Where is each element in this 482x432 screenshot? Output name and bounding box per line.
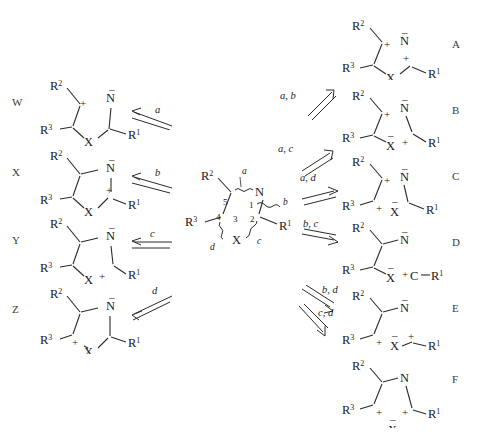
B-charge-minus-N: ‒: [401, 93, 408, 105]
bond-label-a: a: [242, 166, 247, 176]
C-charge-minus-X: ‒: [391, 195, 398, 207]
row-label-X: X: [12, 166, 20, 178]
svg-text:R3: R3: [40, 261, 52, 275]
arrow-label-ac-B: a, c: [278, 143, 293, 154]
Z-charge-minus: ‒: [108, 291, 115, 303]
svg-text:R2: R2: [352, 221, 364, 235]
svg-text:R2: R2: [50, 217, 62, 231]
D-fragment-charge: +: [402, 268, 408, 280]
arrow-to-Z: [126, 292, 174, 326]
C-charge-plus-2: +: [376, 202, 382, 214]
arrow-label-bd-E: b, d: [322, 284, 338, 295]
A-X-atom: X: [386, 71, 395, 80]
D-fragment-C: C: [410, 269, 418, 282]
F-charge-plus-1: +: [376, 406, 382, 418]
svg-text:R1: R1: [428, 339, 440, 352]
svg-text:R1: R1: [428, 407, 440, 421]
X-charge-minus: ‒: [108, 153, 115, 165]
ring-number-2: 2: [250, 214, 255, 224]
bond-label-b: b: [283, 197, 288, 207]
center-R3-label: R3: [185, 215, 197, 229]
B-charge-plus-2: +: [402, 136, 408, 148]
E-charge-plus-2: +: [408, 330, 414, 342]
arrow-to-C: [300, 185, 342, 213]
svg-text:R2: R2: [352, 289, 364, 303]
F-N-atom: N: [400, 371, 409, 385]
svg-text:R2: R2: [352, 155, 364, 169]
W-charge-plus: +: [80, 97, 86, 109]
svg-text:R3: R3: [40, 193, 52, 207]
structure-A: R2 + N ‒ R3 X + R1: [340, 12, 472, 84]
structure-F: R2 N R3 + + R1 X ‒: [340, 352, 472, 424]
svg-text:R3: R3: [40, 333, 52, 347]
row-label-W: W: [12, 96, 23, 108]
svg-text:R1: R1: [431, 269, 443, 282]
structure-C: R2 + N ‒ R3 + X ‒ R1: [340, 148, 472, 220]
svg-text:R3: R3: [342, 131, 354, 145]
svg-text:R3: R3: [342, 403, 354, 417]
svg-text:R1: R1: [128, 268, 140, 282]
structure-D: R2 N ‒ R3 X ‒ + C R1: [340, 214, 472, 286]
svg-text:R2: R2: [50, 79, 62, 93]
arrow-label-ab-A: a, b: [280, 90, 296, 101]
svg-text:R3: R3: [342, 263, 354, 277]
Y-charge-plus: +: [99, 270, 105, 282]
center-structure: R2 5 a N 1 b 4 R3 d X: [185, 162, 310, 257]
arrow-label-cd-F: c, d: [318, 307, 333, 318]
F-charge-plus-2: +: [402, 406, 408, 418]
svg-text:R2: R2: [352, 359, 364, 373]
A-charge-minus: ‒: [401, 26, 408, 38]
arrow-to-X: [126, 170, 174, 200]
arrow-label-d-Z: d: [152, 285, 157, 296]
C-charge-plus-1: +: [384, 174, 390, 186]
svg-text:R2: R2: [50, 287, 62, 301]
center-R2-label: R2: [201, 169, 213, 183]
figure-canvas: W X Y Z A B C D E F R2 5 a N 1 b: [0, 0, 482, 432]
W-charge-minus: ‒: [108, 83, 115, 95]
bond-label-d: d: [210, 242, 215, 252]
structure-E: R2 N ‒ R3 + X ‒ + R1: [340, 282, 472, 354]
svg-text:R1: R1: [428, 67, 440, 80]
arrow-to-D: [300, 226, 342, 256]
D-charge-minus-X: ‒: [387, 261, 394, 273]
A-charge-plus-2: +: [403, 52, 409, 64]
ring-number-1: 1: [249, 200, 254, 210]
row-label-Z: Z: [12, 303, 19, 315]
row-label-Y: Y: [12, 234, 20, 246]
B-charge-minus-X: ‒: [387, 129, 394, 141]
arrow-label-b-X: b: [155, 167, 160, 178]
ring-number-3: 3: [233, 214, 238, 224]
arrow-label-c-Y: c: [150, 228, 155, 239]
center-N-atom: N: [255, 185, 264, 199]
svg-text:R2: R2: [50, 149, 62, 163]
C-charge-minus-N: ‒: [401, 162, 408, 174]
arrow-to-W: [126, 104, 174, 134]
svg-text:R2: R2: [352, 89, 364, 103]
A-charge-plus-1: +: [384, 38, 390, 50]
svg-text:R2: R2: [352, 19, 364, 33]
F-charge-minus-X: ‒: [389, 413, 396, 425]
svg-text:R3: R3: [40, 123, 52, 137]
structure-B: R2 + N ‒ R3 X ‒ + R1: [340, 82, 472, 154]
E-charge-plus-1: +: [376, 336, 382, 348]
arrow-to-A: [306, 88, 340, 124]
svg-text:R3: R3: [342, 199, 354, 213]
svg-text:R1: R1: [128, 336, 140, 350]
svg-text:R3: R3: [342, 61, 354, 75]
Z-charge-plus: +: [72, 336, 78, 348]
center-R1-label: R1: [279, 219, 291, 233]
arrow-label-a-W: a: [155, 104, 160, 115]
E-charge-minus-X: ‒: [391, 329, 398, 341]
E-charge-minus-N: ‒: [401, 293, 408, 305]
arrow-label-ad-C: a, d: [300, 172, 316, 183]
B-charge-plus-1: +: [384, 108, 390, 120]
bond-label-c: c: [257, 236, 262, 246]
D-charge-minus-N: ‒: [401, 225, 408, 237]
Z-X-atom: X: [84, 345, 93, 354]
arrow-label-bc-D: b, c: [303, 218, 318, 229]
Y-charge-minus: ‒: [108, 221, 115, 233]
center-X-atom: X: [232, 233, 241, 247]
svg-text:R1: R1: [128, 198, 140, 212]
svg-text:R3: R3: [342, 333, 354, 347]
